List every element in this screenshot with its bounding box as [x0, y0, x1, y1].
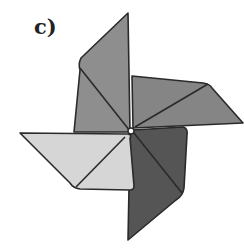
- pinwheel-illustration: [0, 0, 244, 248]
- bottom-blade: [128, 127, 187, 240]
- left-blade: [20, 133, 134, 190]
- top-blade: [74, 13, 130, 132]
- pinwheel-center-pin: [128, 128, 134, 134]
- right-blade: [132, 76, 243, 128]
